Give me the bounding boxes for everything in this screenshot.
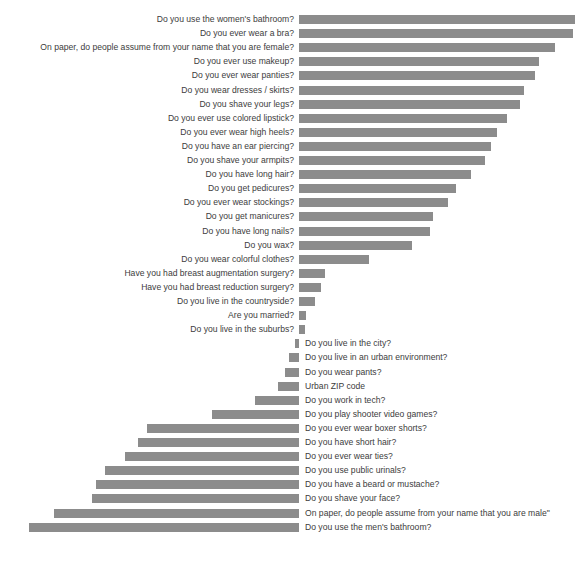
chart-bar[interactable]: [299, 86, 524, 95]
chart-row-label: Do you live in an urban environment?: [305, 352, 447, 363]
chart-row-label: Do you live in the suburbs?: [190, 324, 294, 335]
chart-bar[interactable]: [295, 339, 299, 348]
chart-bar[interactable]: [29, 523, 299, 532]
chart-bar[interactable]: [299, 198, 448, 207]
chart-bar[interactable]: [299, 156, 485, 165]
chart-row-label: Do you wear colorful clothes?: [181, 254, 294, 265]
chart-row: Do you wax?: [0, 239, 581, 253]
chart-bar[interactable]: [285, 368, 299, 377]
chart-row: Do you have long hair?: [0, 168, 581, 182]
chart-row: Do you ever wear a bra?: [0, 27, 581, 41]
chart-row-label: Do you use the men's bathroom?: [305, 522, 431, 533]
chart-bar[interactable]: [299, 43, 555, 52]
chart-row: Do you use the women's bathroom?: [0, 13, 581, 27]
chart-row: Do you live in the suburbs?: [0, 323, 581, 337]
chart-bar[interactable]: [299, 15, 575, 24]
chart-row-label: On paper, do people assume from your nam…: [305, 508, 550, 519]
chart-bar[interactable]: [299, 269, 325, 278]
chart-row: Do you shave your face?: [0, 492, 581, 506]
chart-row: Do you live in an urban environment?: [0, 351, 581, 365]
chart-row: Do you live in the countryside?: [0, 295, 581, 309]
chart-row: Do you work in tech?: [0, 394, 581, 408]
chart-title: [0, 0, 581, 2]
chart-row: Do you get manicures?: [0, 210, 581, 224]
chart-row-label: Do you ever wear stockings?: [184, 197, 294, 208]
chart-row-label: Do you use the women's bathroom?: [157, 14, 294, 25]
chart-bar[interactable]: [125, 452, 299, 461]
chart-bar[interactable]: [147, 424, 299, 433]
chart-row: Do you ever wear high heels?: [0, 126, 581, 140]
chart-row-label: Do you ever wear ties?: [305, 451, 393, 462]
chart-bar[interactable]: [299, 311, 306, 320]
chart-bar[interactable]: [299, 100, 520, 109]
chart-row: Do you shave your armpits?: [0, 154, 581, 168]
chart-row-label: Do you work in tech?: [305, 395, 385, 406]
chart-row: Have you had breast reduction surgery?: [0, 281, 581, 295]
chart-row-label: Do you get manicures?: [206, 211, 294, 222]
chart-row: Do you ever wear panties?: [0, 69, 581, 83]
chart-bar[interactable]: [299, 212, 433, 221]
chart-row-label: Do you wear pants?: [305, 367, 381, 378]
chart-bar[interactable]: [299, 128, 497, 137]
chart-bar[interactable]: [299, 325, 305, 334]
chart-row: Do you ever use makeup?: [0, 55, 581, 69]
chart-row: Do you wear colorful clothes?: [0, 253, 581, 267]
chart-row: On paper, do people assume from your nam…: [0, 507, 581, 521]
chart-row-label: Do you have long hair?: [206, 169, 294, 180]
chart-bar[interactable]: [299, 227, 430, 236]
chart-bar[interactable]: [299, 142, 491, 151]
chart-row-label: Do you have long nails?: [202, 226, 294, 237]
diverging-bar-chart: Do you use the women's bathroom?Do you e…: [0, 0, 581, 561]
chart-row: Have you had breast augmentation surgery…: [0, 267, 581, 281]
chart-row-label: Do you use public urinals?: [305, 465, 406, 476]
chart-row-label: Do you play shooter video games?: [305, 409, 437, 420]
chart-row-label: Do you ever wear boxer shorts?: [305, 423, 427, 434]
chart-bar[interactable]: [278, 382, 299, 391]
chart-row-label: Do you get pedicures?: [208, 183, 294, 194]
chart-bar[interactable]: [299, 283, 321, 292]
chart-bar[interactable]: [299, 170, 471, 179]
chart-row-label: Do you have a beard or mustache?: [305, 479, 439, 490]
chart-bar[interactable]: [289, 353, 299, 362]
chart-row: Do you use public urinals?: [0, 464, 581, 478]
chart-bar[interactable]: [54, 509, 299, 518]
chart-row-label: Do you shave your armpits?: [187, 155, 294, 166]
chart-row: Do you wear dresses / skirts?: [0, 84, 581, 98]
chart-row: Do you wear pants?: [0, 366, 581, 380]
chart-bar[interactable]: [92, 494, 299, 503]
chart-bar[interactable]: [299, 57, 539, 66]
chart-bar[interactable]: [299, 184, 456, 193]
chart-row-label: Do you ever use colored lipstick?: [168, 113, 294, 124]
chart-bar[interactable]: [255, 396, 299, 405]
chart-bar[interactable]: [299, 241, 412, 250]
chart-bar[interactable]: [299, 255, 369, 264]
chart-row-label: Do you ever use makeup?: [194, 56, 294, 67]
chart-row-label: Do you have an ear piercing?: [182, 141, 294, 152]
chart-row: Do you ever use colored lipstick?: [0, 112, 581, 126]
chart-row-label: Do you live in the countryside?: [177, 296, 294, 307]
chart-row: Urban ZIP code: [0, 380, 581, 394]
chart-row: Do you have an ear piercing?: [0, 140, 581, 154]
chart-row-label: Do you ever wear a bra?: [200, 28, 294, 39]
chart-row: Do you live in the city?: [0, 337, 581, 351]
chart-row: On paper, do people assume from your nam…: [0, 41, 581, 55]
chart-row-label: Are you married?: [228, 310, 294, 321]
chart-row: Do you have long nails?: [0, 225, 581, 239]
chart-bar[interactable]: [138, 438, 299, 447]
chart-bar[interactable]: [299, 29, 573, 38]
chart-bar[interactable]: [299, 71, 535, 80]
chart-row: Do you ever wear boxer shorts?: [0, 422, 581, 436]
chart-row-label: On paper, do people assume from your nam…: [40, 42, 294, 53]
chart-bar[interactable]: [105, 466, 299, 475]
chart-row: Do you ever wear ties?: [0, 450, 581, 464]
chart-row-label: Do you live in the city?: [305, 338, 391, 349]
chart-bar[interactable]: [299, 114, 507, 123]
chart-bar[interactable]: [299, 297, 315, 306]
chart-row-label: Do you wear dresses / skirts?: [181, 85, 294, 96]
chart-bar[interactable]: [96, 480, 299, 489]
chart-row-label: Do you shave your legs?: [199, 99, 294, 110]
chart-row-label: Do you ever wear high heels?: [180, 127, 294, 138]
chart-row-label: Do you ever wear panties?: [192, 70, 294, 81]
chart-bar[interactable]: [212, 410, 299, 419]
chart-row-label: Urban ZIP code: [305, 381, 365, 392]
